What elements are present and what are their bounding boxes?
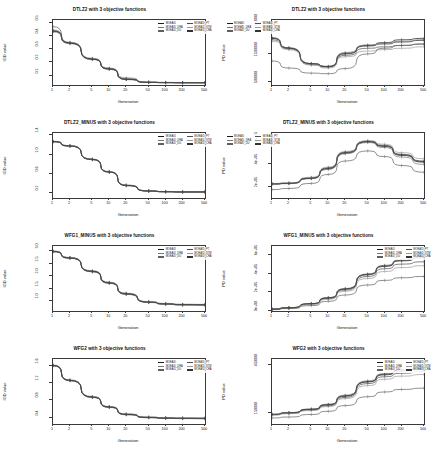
legend-item: MOEA/D_DU <box>158 255 183 259</box>
series-line <box>53 141 205 192</box>
legend-swatch <box>255 30 261 31</box>
plot-area <box>271 19 425 86</box>
x-axis-tick-label: 2 <box>62 201 76 205</box>
series-line <box>53 366 205 419</box>
legend-label: MOEA/D_CRA <box>194 368 211 372</box>
legend-item: MOEA/D_CRA <box>255 142 280 146</box>
x-axis-tick-label: 2 <box>281 88 295 92</box>
legend-swatch <box>187 140 193 141</box>
x-axis-tick-label: 50 <box>141 427 155 431</box>
x-axis-tick-label: 200 <box>394 88 408 92</box>
x-axis-tick-label: 500 <box>416 201 430 205</box>
x-axis-label: Generation <box>271 99 423 104</box>
legend-swatch <box>158 27 164 28</box>
y-axis-tick-label: 4e+05 <box>254 146 258 172</box>
series-line <box>53 32 205 83</box>
legend-swatch <box>227 140 233 141</box>
series-line <box>53 365 205 418</box>
series-line <box>53 366 205 419</box>
x-axis-tick-label: 1 <box>264 201 278 205</box>
chart-panel: DTLZ2_MINUS with 3 objective functionsIG… <box>0 113 219 226</box>
series-line <box>53 142 205 192</box>
legend-swatch <box>255 27 261 28</box>
legend-swatch <box>406 253 412 254</box>
series-line <box>53 365 205 418</box>
legend-label: MOEA/D_DU <box>166 29 181 33</box>
chart-title: DTLZ2_MINUS with 3 objective functions <box>0 120 219 125</box>
x-axis-tick-label: 10 <box>320 88 334 92</box>
legend-swatch <box>227 136 233 137</box>
series-line <box>272 143 424 185</box>
x-axis-tick-label: 500 <box>197 427 211 431</box>
x-axis-tick-label: 2 <box>62 427 76 431</box>
series-line <box>53 31 205 83</box>
legend-swatch <box>227 143 233 144</box>
x-axis-tick-label: 500 <box>197 88 211 92</box>
legend-label: MOEA/D_DU <box>385 368 400 372</box>
x-axis-tick-label: 50 <box>141 314 155 318</box>
series-line <box>53 31 205 83</box>
x-axis-tick-label: 20 <box>337 201 351 205</box>
x-axis-label: Generation <box>52 99 204 104</box>
x-axis-label: Generation <box>52 438 204 443</box>
legend-label: MOEA/D_CRA <box>413 368 430 372</box>
series-line <box>53 141 205 191</box>
x-axis-tick-label: 10 <box>101 88 115 92</box>
legend-swatch <box>158 23 164 24</box>
x-axis-tick-label: 1 <box>45 88 59 92</box>
x-axis-tick-label: 20 <box>337 314 351 318</box>
x-axis-tick-label: 500 <box>197 314 211 318</box>
x-axis-tick-label: 50 <box>360 88 374 92</box>
y-axis-label: IGD value <box>0 133 11 198</box>
chart-title: DTLZ2_MINUS with 3 objective functions <box>219 120 438 125</box>
legend-swatch <box>377 362 383 363</box>
series-line <box>272 257 424 309</box>
series-line <box>53 30 205 83</box>
y-axis-label: PD value <box>218 246 230 311</box>
x-axis-tick-label: 200 <box>394 201 408 205</box>
x-axis-label: Generation <box>271 212 423 217</box>
y-axis-tick-label: 1.6 <box>35 348 39 374</box>
x-axis-tick-label: 200 <box>175 88 189 92</box>
x-axis-tick-label: 5 <box>303 314 317 318</box>
chart-title: DTLZ2 with 3 objective functions <box>0 7 219 12</box>
legend-swatch <box>187 143 193 144</box>
y-axis-label: IGD value <box>0 20 11 85</box>
x-axis-label: Generation <box>271 325 423 330</box>
legend-label: MOEA/D_DU <box>385 255 400 259</box>
legend-swatch <box>227 30 233 31</box>
x-axis-tick-label: 1 <box>264 314 278 318</box>
legend-label: MOEA/D_CRA <box>263 142 280 146</box>
x-axis-tick-label: 100 <box>158 427 172 431</box>
y-axis-tick-label: 1500000 <box>254 36 258 62</box>
series-line <box>272 369 424 415</box>
legend-item: MOEA/D_CRA <box>187 142 212 146</box>
x-axis-tick-label: 50 <box>360 427 374 431</box>
y-axis-tick-label: 1.4 <box>35 117 39 143</box>
x-axis-tick-label: 5 <box>84 88 98 92</box>
x-axis-tick-label: 5 <box>84 314 98 318</box>
series-line <box>53 27 205 83</box>
series-line <box>272 142 424 184</box>
x-axis-tick-label: 10 <box>101 427 115 431</box>
chart-title: WFG1_MINUS with 3 objective functions <box>0 233 219 238</box>
x-axis-tick-label: 5 <box>84 201 98 205</box>
chart-legend: MOEA/DMOEA/D_PTMOEA/D_DRAMOEA/D_STMMOEA/… <box>225 21 281 34</box>
x-axis-tick-label: 100 <box>377 427 391 431</box>
chart-panel: DTLZ2 with 3 objective functionsPD value… <box>219 0 438 113</box>
legend-swatch <box>255 140 261 141</box>
legend-swatch <box>187 362 193 363</box>
legend-item: MOEA/D_CRA <box>406 255 431 259</box>
series-line <box>272 151 424 190</box>
x-axis-tick-label: 2 <box>281 427 295 431</box>
y-axis-tick-label: 6e+05 <box>254 237 258 263</box>
x-axis-tick-label: 50 <box>360 314 374 318</box>
series-line <box>53 365 205 418</box>
legend-swatch <box>158 366 164 367</box>
x-axis-tick-label: 200 <box>394 427 408 431</box>
legend-item: MOEA/D_CRA <box>187 368 212 372</box>
legend-swatch <box>187 249 193 250</box>
legend-swatch <box>158 143 164 144</box>
x-axis-tick-label: 20 <box>118 427 132 431</box>
legend-swatch <box>227 27 233 28</box>
